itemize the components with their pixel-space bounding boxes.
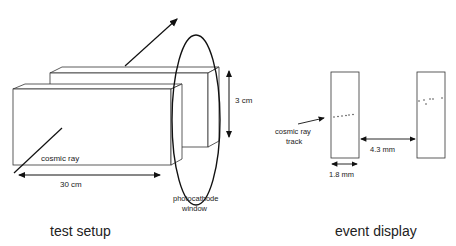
window-label-line1: photocathode <box>173 194 218 203</box>
track-label-line1: cosmic ray <box>275 127 311 136</box>
left-fiber-panel <box>331 72 359 158</box>
track-label-line2: track <box>286 137 303 146</box>
height-label: 3 cm <box>235 96 253 105</box>
front-scintillator-bar <box>13 84 182 165</box>
right-fiber-panel <box>417 72 445 158</box>
diagram-canvas: cosmic ray 30 cm 3 cm photocathode windo… <box>0 0 456 246</box>
window-label-line2: window <box>181 204 208 213</box>
length-label: 30 cm <box>60 180 82 189</box>
cosmic-ray-arrow-out <box>125 19 177 66</box>
cosmic-ray-label: cosmic ray <box>41 154 79 163</box>
event-display-caption: event display <box>335 223 417 239</box>
test-setup-caption: test setup <box>50 223 111 239</box>
width-label: 1.8 mm <box>329 170 354 179</box>
gap-label: 4.3 mm <box>370 145 395 154</box>
track-pointer-arrow <box>298 118 324 124</box>
